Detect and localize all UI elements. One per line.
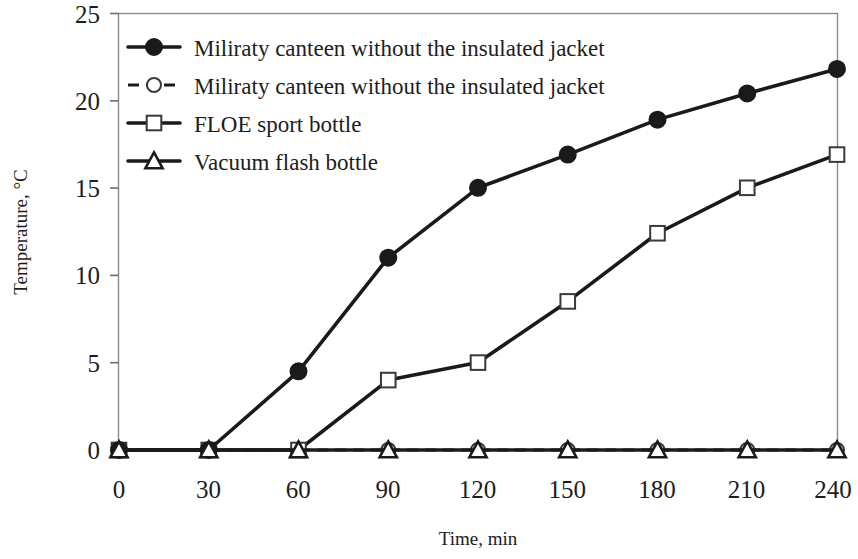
y-tick-label-5: 5 <box>88 350 101 377</box>
legend-entry-2: Miliraty canteen without the insulated j… <box>128 74 605 99</box>
x-tick-label-0: 0 <box>113 476 126 503</box>
series-1-point-210 <box>739 85 755 101</box>
x-tick-label-210: 210 <box>728 476 766 503</box>
x-tick-label-60: 60 <box>286 476 311 503</box>
legend-label-4: Vacuum flash bottle <box>194 150 378 175</box>
y-axis-title: Temperature, °C <box>10 169 31 295</box>
legend-entry-1: Miliraty canteen without the insulated j… <box>128 36 605 61</box>
series-1-point-60 <box>290 363 306 379</box>
chart-container: 25 20 15 10 5 0 Temperature, °C 0 30 60 … <box>0 0 858 559</box>
legend-label-3: FLOE sport bottle <box>194 112 361 137</box>
series-3-point-210 <box>740 181 755 196</box>
series-3-point-90 <box>381 373 396 388</box>
legend-marker-1 <box>146 39 162 55</box>
legend-marker-3 <box>147 116 162 131</box>
x-tick-label-90: 90 <box>376 476 401 503</box>
series-3-point-150 <box>560 294 575 309</box>
y-axis-title-group: Temperature, °C <box>10 169 31 295</box>
series-1-point-90 <box>380 250 396 266</box>
series-1-point-120 <box>470 180 486 196</box>
x-tick-label-180: 180 <box>638 476 676 503</box>
y-tick-label-25: 25 <box>75 1 100 28</box>
y-tick-label-10: 10 <box>75 262 100 289</box>
legend-marker-2 <box>147 78 161 92</box>
series-3-point-180 <box>650 226 665 241</box>
x-tick-label-30: 30 <box>196 476 221 503</box>
series-1-point-240 <box>829 61 845 77</box>
legend-label-2: Miliraty canteen without the insulated j… <box>194 74 605 99</box>
temperature-vs-time-line-chart: 25 20 15 10 5 0 Temperature, °C 0 30 60 … <box>0 0 858 559</box>
y-tick-label-20: 20 <box>75 88 100 115</box>
series-1-point-180 <box>649 111 665 127</box>
x-axis-title: Time, min <box>439 528 518 549</box>
y-tick-label-0: 0 <box>88 437 101 464</box>
series-3-point-240 <box>830 147 845 162</box>
x-tick-label-240: 240 <box>814 476 852 503</box>
series-1-point-150 <box>560 146 576 162</box>
x-tick-label-120: 120 <box>459 476 497 503</box>
x-tick-label-150: 150 <box>549 476 587 503</box>
y-tick-label-15: 15 <box>75 175 100 202</box>
series-3-point-120 <box>471 355 486 370</box>
legend-label-1: Miliraty canteen without the insulated j… <box>194 36 605 61</box>
